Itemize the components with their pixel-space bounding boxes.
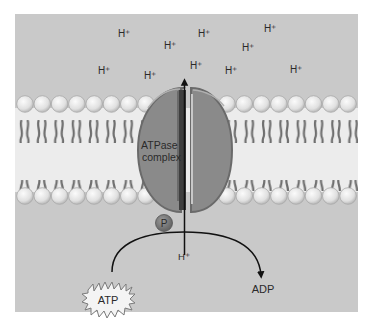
proton-cytoplasm: H⁺ (178, 251, 190, 262)
phosphate-group: P (156, 215, 173, 232)
atp-label: ATP (98, 294, 119, 306)
proton-channel-light (191, 94, 193, 204)
proton-ion: H⁺ (290, 64, 302, 75)
lipid-tails-inner (15, 158, 358, 191)
proton-ion: H⁺ (225, 65, 237, 76)
proton-ion: H⁺ (118, 28, 130, 39)
atpase-diagram: ATPase complex P H⁺ ATP ADP H⁺H⁺H⁺H⁺H⁺H⁺… (0, 0, 371, 322)
adp-label: ADP (252, 283, 275, 295)
proton-ion: H⁺ (264, 23, 276, 34)
proton-ion: H⁺ (198, 28, 210, 39)
atpase-label-line1: ATPase (141, 139, 178, 151)
lipid-tails-outer (15, 110, 358, 143)
proton-ion: H⁺ (98, 65, 110, 76)
proton-ion: H⁺ (190, 60, 202, 71)
atpase-label-line2: complex (142, 151, 182, 163)
proton-ion: H⁺ (144, 70, 156, 81)
proton-ion: H⁺ (164, 40, 176, 51)
phosphate-label: P (161, 218, 168, 229)
proton-ion: H⁺ (242, 42, 254, 53)
